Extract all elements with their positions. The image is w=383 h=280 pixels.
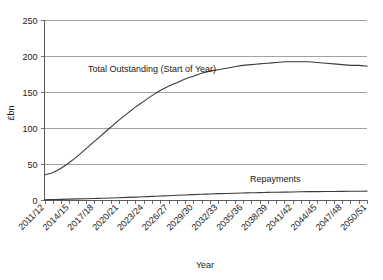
y-axis-tick-labels: 050100150200250: [22, 16, 37, 206]
y-tick-label: 250: [22, 16, 37, 26]
x-tick-label: 2041/42: [264, 202, 294, 232]
line-chart: 050100150200250 2011/122014/152017/18202…: [0, 0, 383, 280]
x-tick-label: 2038/39: [239, 202, 269, 232]
series-annotation-total-outstanding: Total Outstanding (Start of Year): [88, 64, 216, 74]
gridlines: [41, 21, 368, 201]
y-tick-label: 50: [27, 160, 37, 170]
x-tick-label: 2014/15: [41, 202, 71, 232]
x-tick-label: 2050/51: [338, 202, 368, 232]
x-tick-label: 2047/48: [314, 202, 344, 232]
y-tick-label: 200: [22, 52, 37, 62]
x-tick-label: 2032/33: [189, 202, 219, 232]
y-axis-title: £bn: [6, 105, 16, 120]
series-line-total-outstanding: [45, 62, 368, 175]
y-tick-label: 100: [22, 124, 37, 134]
x-tick-label: 2026/27: [140, 202, 170, 232]
x-tick-label: 2017/18: [65, 202, 95, 232]
x-tick-label: 2023/24: [115, 202, 145, 232]
x-axis-title: Year: [196, 260, 214, 270]
y-tick-label: 150: [22, 88, 37, 98]
x-tick-label: 2035/36: [214, 202, 244, 232]
x-axis-tick-labels: 2011/122014/152017/182020/212023/242026/…: [16, 202, 368, 232]
series-annotation-repayments: Repayments: [250, 174, 301, 184]
series-line-repayments: [45, 191, 368, 200]
x-tick-label: 2029/30: [165, 202, 195, 232]
x-tick-label: 2020/21: [90, 202, 120, 232]
chart-container: 050100150200250 2011/122014/152017/18202…: [0, 0, 383, 280]
axis-lines: [44, 20, 367, 201]
data-series: [45, 62, 368, 200]
x-tick-label: 2044/45: [289, 202, 319, 232]
